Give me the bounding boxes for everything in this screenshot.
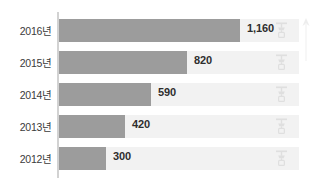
bar [59, 19, 240, 42]
bar [59, 115, 125, 138]
bar [59, 147, 106, 170]
faucet-watermark-icon [275, 117, 288, 135]
category-label: 2014년 [0, 87, 52, 102]
faucet-watermark-icon [275, 85, 288, 103]
bar-value-label: 1,160 [247, 22, 274, 34]
faucet-watermark-icon [275, 149, 288, 167]
bar [59, 51, 187, 74]
category-label: 2016년 [0, 23, 52, 38]
bar-value-label: 590 [158, 86, 176, 98]
bar-row: 2013년420 [0, 110, 320, 142]
bar-row: 2012년300 [0, 142, 320, 174]
bar-value-label: 420 [132, 118, 150, 130]
category-label: 2012년 [0, 151, 52, 166]
bar [59, 83, 151, 106]
bar-rows: 2016년1,1602015년8202014년5902013년4202012년3… [0, 0, 320, 186]
category-label: 2013년 [0, 119, 52, 134]
faucet-watermark-icon [275, 21, 288, 39]
category-label: 2015년 [0, 55, 52, 70]
bar-chart: 2016년1,1602015년8202014년5902013년4202012년3… [0, 0, 320, 186]
bar-row: 2016년1,160 [0, 14, 320, 46]
bar-row: 2014년590 [0, 78, 320, 110]
faucet-watermark-icon [275, 53, 288, 71]
up-arrow-watermark-icon [300, 16, 312, 62]
bar-row: 2015년820 [0, 46, 320, 78]
bar-value-label: 300 [113, 150, 131, 162]
bar-value-label: 820 [194, 54, 212, 66]
